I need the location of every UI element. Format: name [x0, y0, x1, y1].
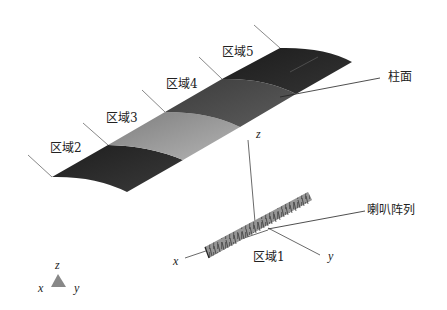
y-axis-label: y — [328, 250, 333, 262]
region-3-label: 区域3 — [106, 112, 138, 124]
speaker-array — [205, 192, 312, 258]
region-4-label: 区域4 — [166, 78, 198, 90]
triad-z-label: z — [55, 259, 60, 271]
triad-x-label: x — [38, 282, 43, 294]
speaker-array-label: 喇叭阵列 — [367, 204, 415, 216]
triad-y-label: y — [74, 282, 79, 294]
cylinder-surface — [52, 48, 352, 192]
orientation-triad-icon — [51, 274, 66, 287]
z-axis-label: z — [256, 128, 261, 140]
region-5-label: 区域5 — [222, 46, 254, 58]
region-1-label: 区域1 — [253, 251, 285, 263]
region-2-label: 区域2 — [50, 142, 82, 154]
cylinder-label: 柱面 — [388, 71, 412, 83]
x-axis-label: x — [173, 255, 178, 267]
